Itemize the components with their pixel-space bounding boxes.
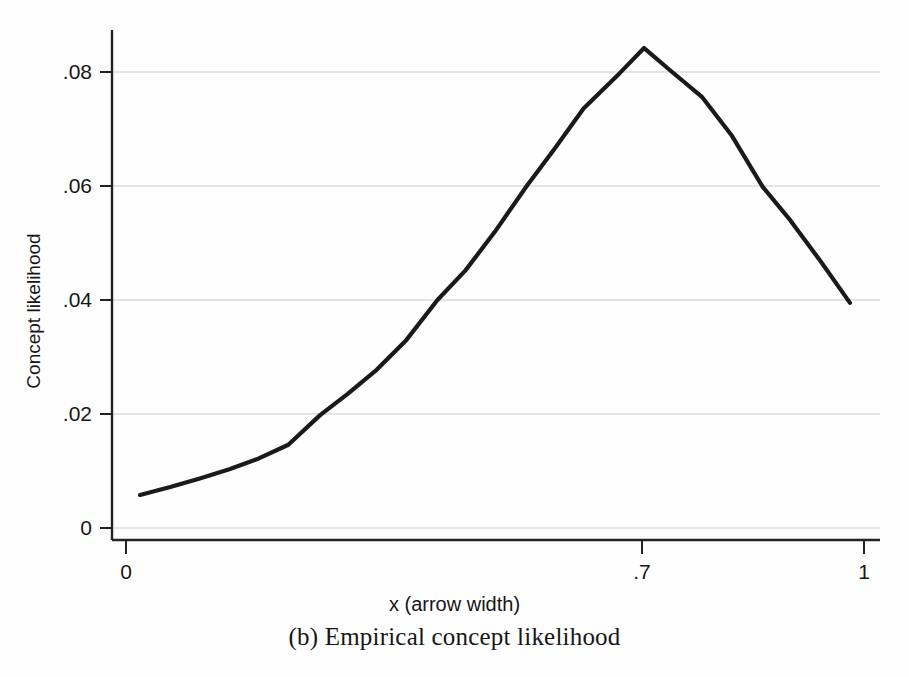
line-chart-canvas (0, 0, 909, 677)
y-axis-title: Concept likelihood (23, 201, 45, 421)
y-tick-label-0.06: .06 (24, 174, 92, 198)
axis-lines (112, 30, 880, 540)
x-axis-ticks (126, 540, 864, 554)
figure-panel: .08 .06 .04 .02 0 0 .7 1 Concept likelih… (0, 0, 909, 677)
data-series-group (140, 48, 850, 495)
x-tick-label-0.7: .7 (633, 560, 651, 584)
figure-caption: (b) Empirical concept likelihood (0, 623, 909, 651)
y-axis-ticks (100, 72, 112, 528)
concept-likelihood-line (140, 48, 850, 495)
x-tick-label-0: 0 (120, 560, 132, 584)
y-tick-label-0.08: .08 (24, 60, 92, 84)
y-tick-label-0: 0 (24, 516, 92, 540)
x-axis-title: x (arrow width) (0, 593, 909, 616)
gridlines (112, 72, 880, 528)
x-tick-label-1: 1 (858, 560, 870, 584)
